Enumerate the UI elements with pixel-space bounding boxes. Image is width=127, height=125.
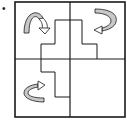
- curved-arrow-left-icon: [94, 9, 116, 34]
- puzzle-diagram: [0, 0, 127, 125]
- curved-arrow-right-icon: [24, 81, 45, 102]
- curved-arrow-down-icon: [24, 13, 50, 34]
